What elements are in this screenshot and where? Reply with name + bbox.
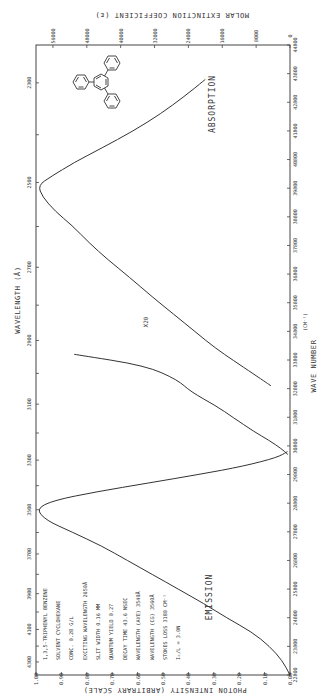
left-tick-label: 3700 bbox=[26, 548, 32, 560]
x20-label: X20 bbox=[142, 316, 149, 327]
right-axis-ticks: 4480043800428004180040800398003880037800… bbox=[287, 37, 298, 682]
emission-label: EMISSION bbox=[205, 574, 214, 621]
note-line: QUANTUM YIELD 0.27 bbox=[108, 604, 114, 660]
top-axis-title: MOLAR EXTINCTION COEFFICIENT (ε) bbox=[95, 11, 249, 19]
note-line: DECAY TIME 43.6 NSEC bbox=[122, 598, 128, 660]
right-axis-title: WAVE NUMBER bbox=[310, 339, 318, 392]
right-tick-label: 25800 bbox=[292, 582, 298, 597]
right-tick-label: 40800 bbox=[292, 152, 298, 167]
left-axis-ticks: 2300250027002900310033003500370039004100… bbox=[26, 77, 39, 668]
right-tick-label: 26800 bbox=[292, 553, 298, 568]
right-tick-label: 33800 bbox=[292, 352, 298, 367]
top-tick-label: 24000 bbox=[185, 28, 191, 43]
x20-curve bbox=[74, 354, 288, 454]
bottom-tick-label: 1.00 bbox=[33, 673, 39, 685]
note-line: WAVELENGTH (AVE) 3540Å bbox=[135, 590, 141, 660]
right-tick-label: 24800 bbox=[292, 610, 298, 625]
molecule-structure-icon bbox=[73, 56, 120, 108]
left-tick-label: 4300 bbox=[26, 656, 32, 668]
top-tick-label: 8000 bbox=[253, 30, 259, 42]
right-tick-label: 28800 bbox=[292, 496, 298, 511]
top-tick-label: 56000 bbox=[50, 28, 56, 43]
right-tick-label: 34800 bbox=[292, 324, 298, 339]
right-tick-label: 31800 bbox=[292, 410, 298, 425]
right-tick-label: 42800 bbox=[292, 95, 298, 110]
note-line: SOLVENT CYCLOHEXANE bbox=[55, 601, 61, 660]
right-tick-label: 32800 bbox=[292, 381, 298, 396]
right-tick-label: 44800 bbox=[292, 37, 298, 52]
right-tick-label: 36800 bbox=[292, 267, 298, 282]
right-tick-label: 41800 bbox=[292, 123, 298, 138]
bottom-axis-title: PHOTON INTENSITY (ARBITRARY SCALE) bbox=[83, 686, 247, 694]
right-tick-label: 27800 bbox=[292, 524, 298, 539]
top-tick-label: 16000 bbox=[219, 28, 225, 43]
right-tick-label: 35800 bbox=[292, 295, 298, 310]
left-tick-label: 3900 bbox=[26, 588, 32, 600]
bottom-tick-label: 0.50 bbox=[160, 673, 166, 685]
note-line: WAVELENGTH (CG) 3560Å bbox=[149, 594, 155, 660]
left-tick-label: 3500 bbox=[26, 504, 32, 516]
right-tick-label: 29800 bbox=[292, 467, 298, 482]
top-tick-label: 48000 bbox=[84, 28, 90, 43]
note-line: SLIT WIDTH 0.16 MM bbox=[95, 604, 101, 660]
note-line: I₀/L = 3.0N bbox=[175, 626, 181, 660]
right-tick-label: 37800 bbox=[292, 238, 298, 253]
bottom-tick-label: 0.70 bbox=[109, 673, 115, 685]
left-tick-label: 3100 bbox=[26, 398, 32, 410]
right-tick-label: 38800 bbox=[292, 209, 298, 224]
bottom-tick-label: 0.10 bbox=[262, 673, 268, 685]
bottom-tick-label: 0.30 bbox=[211, 673, 217, 685]
note-line: STOKES LOSS 3180 CM⁻¹ bbox=[162, 594, 168, 660]
right-tick-label: 30800 bbox=[292, 438, 298, 453]
bottom-tick-label: 0.90 bbox=[58, 673, 64, 685]
top-tick-label: 32000 bbox=[152, 28, 158, 43]
left-tick-label: 2300 bbox=[26, 77, 32, 89]
right-tick-label: 39800 bbox=[292, 181, 298, 196]
left-tick-label: 2700 bbox=[26, 261, 32, 273]
left-tick-label: 3300 bbox=[26, 454, 32, 466]
left-tick-label: 2500 bbox=[26, 176, 32, 188]
absorption-curve bbox=[40, 79, 271, 385]
right-tick-label: 43800 bbox=[292, 66, 298, 81]
top-tick-label: 0 bbox=[287, 34, 293, 37]
right-tick-label: 22800 bbox=[292, 667, 298, 682]
bottom-axis-ticks: 1.000.900.800.700.600.500.400.300.200.10… bbox=[33, 672, 293, 685]
note-line: EXCITING WAVELENGTH 2650Å bbox=[82, 581, 88, 660]
bottom-tick-label: 0.60 bbox=[135, 673, 141, 685]
right-axis-unit: (CM⁻¹) bbox=[302, 313, 308, 331]
note-line: CONC. 0.28 G/L bbox=[68, 616, 74, 660]
bottom-tick-label: 0.80 bbox=[84, 673, 90, 685]
note-line: 1,3,5-TRIPHENYL BENZENE bbox=[42, 588, 48, 660]
left-tick-label: 4100 bbox=[26, 623, 32, 635]
absorption-label: ABSORPTION bbox=[208, 75, 217, 133]
bottom-tick-label: 0.40 bbox=[185, 673, 191, 685]
spectrum-chart: 56000480004000032000240001600080000 1.00… bbox=[0, 0, 323, 695]
bottom-tick-label: 0.20 bbox=[236, 673, 242, 685]
left-axis-title: WAVELENGTH (Å) bbox=[13, 266, 22, 333]
right-tick-label: 23800 bbox=[292, 639, 298, 654]
top-tick-label: 40000 bbox=[118, 28, 124, 43]
left-tick-label: 2900 bbox=[26, 334, 32, 346]
experiment-notes: 1,3,5-TRIPHENYL BENZENESOLVENT CYCLOHEXA… bbox=[42, 581, 181, 660]
